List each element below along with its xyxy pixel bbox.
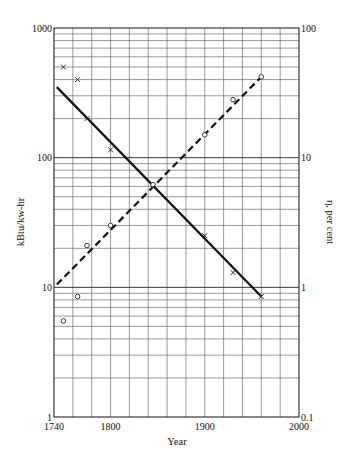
- circle-marker: [61, 319, 66, 324]
- circle-marker: [85, 243, 90, 248]
- y-tick-label: 1000: [32, 23, 52, 34]
- tick-labels: 174018001900200011010010000.1110100: [32, 23, 316, 433]
- x-tick-label: 1900: [195, 421, 215, 432]
- y-tick-label: 100: [37, 152, 52, 163]
- circle-marker: [151, 182, 156, 187]
- efficiency-trend-line: [57, 77, 261, 285]
- y2-tick-label: 10: [301, 152, 311, 163]
- y2-tick-label: 1: [301, 282, 306, 293]
- plot-frame: [54, 28, 299, 417]
- y2-tick-label: 100: [301, 23, 316, 34]
- circle-marker: [231, 97, 236, 102]
- y2-axis-label: η, per cent: [325, 200, 336, 244]
- x-axis-label: Year: [167, 436, 187, 447]
- circle-marker: [202, 133, 207, 138]
- chart: 174018001900200011010010000.1110100 Year…: [0, 0, 347, 470]
- y-tick-label: 10: [42, 282, 52, 293]
- y2-tick-label: 0.1: [301, 412, 314, 423]
- x-tick-label: 1800: [101, 421, 121, 432]
- x-tick-label: 1740: [44, 421, 64, 432]
- circle-marker: [75, 294, 80, 299]
- grid-lines: [54, 28, 299, 417]
- y-axis-label: kBtu/kw-hr: [15, 197, 26, 246]
- x-tick-label: 2000: [289, 421, 309, 432]
- y-tick-label: 1: [47, 412, 52, 423]
- circle-marker: [108, 223, 113, 228]
- x-marker: [231, 270, 236, 275]
- circle-marker: [259, 75, 264, 80]
